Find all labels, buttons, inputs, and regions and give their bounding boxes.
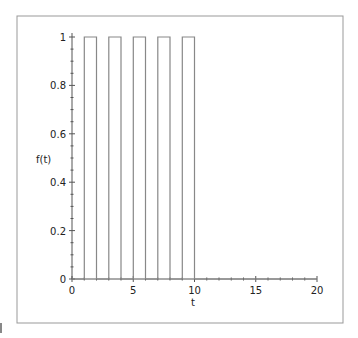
y-tick-label: 0.4 — [50, 177, 66, 188]
y-tick-label: 0.2 — [50, 226, 66, 237]
side-marker — [0, 323, 2, 333]
pulse-train-line — [72, 37, 317, 279]
x-tick-label: 20 — [311, 285, 324, 296]
x-tick-label: 10 — [188, 285, 201, 296]
x-tick-label: 5 — [130, 285, 136, 296]
x-tick-label: 15 — [249, 285, 262, 296]
y-tick-label: 0 — [60, 274, 66, 285]
chart: 00.20.40.60.8105101520 f(t) t — [0, 0, 358, 338]
y-tick-label: 1 — [60, 32, 66, 43]
y-axis-label: f(t) — [36, 154, 51, 165]
x-axis-label: t — [191, 297, 195, 308]
y-tick-label: 0.6 — [50, 129, 66, 140]
axes: 00.20.40.60.8105101520 — [50, 32, 323, 296]
x-tick-label: 0 — [69, 285, 75, 296]
data-series — [72, 37, 317, 279]
y-tick-label: 0.8 — [50, 80, 66, 91]
